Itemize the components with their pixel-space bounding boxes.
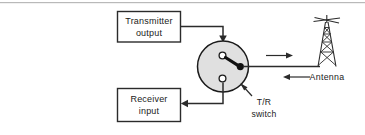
antenna-label: Antenna [310,72,345,82]
receiver-label-line1: Receiver [130,94,167,104]
transmitter-wire-path [181,27,224,38]
receiver-label-line2: input [139,106,160,116]
tr-switch-label-line1: T/R [257,97,271,107]
tr-switch-diagram: Transmitter output Recei [0,0,365,135]
tower-brace-6 [321,42,332,52]
antenna-pole-dot [237,63,244,70]
arrow-left-icon-receive [283,74,290,80]
receive-direction-indicator [283,74,310,80]
arrow-left-icon [181,100,188,107]
antenna-tower-icon [314,15,341,67]
tr-switch-label-line2: switch [251,109,276,119]
diagram-canvas: Transmitter output Recei [0,0,365,135]
receiver-input-block: Receiver input [118,89,181,122]
transmitter-label-line1: Transmitter [125,16,172,26]
arrow-right-icon [286,53,293,59]
transmitter-to-switch-wire [181,27,227,43]
tr-switch-callout: T/R switch [240,83,276,119]
transmitter-output-block: Transmitter output [118,12,181,43]
transmitter-label-line2: output [136,28,163,38]
transmit-direction-indicator [266,53,293,59]
top-divider [0,2,365,3]
receive-contact-icon [219,75,226,82]
